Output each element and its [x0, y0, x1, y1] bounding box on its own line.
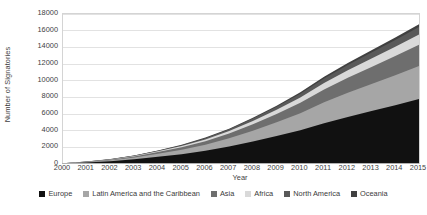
x-axis-tick-label: 2002: [101, 164, 117, 171]
y-axis-tick-label: 16000: [14, 26, 58, 33]
y-axis-tick-labels: 0200040006000800010000120001400016000180…: [14, 0, 58, 215]
x-axis-tick-label: 2012: [339, 164, 355, 171]
y-axis-tick-label: 2000: [14, 143, 58, 150]
y-axis-tick-label: 18000: [14, 9, 58, 16]
x-axis-tick-label: 2005: [172, 164, 188, 171]
x-axis-tick-label: 2010: [291, 164, 307, 171]
legend-item-label: North America: [293, 190, 340, 197]
x-axis-tick-label: 2004: [149, 164, 165, 171]
x-axis-tick-label: 2015: [410, 164, 426, 171]
legend-swatch-icon: [83, 191, 89, 197]
y-axis-tick-label: 10000: [14, 76, 58, 83]
legend-item-label: Europe: [48, 190, 72, 197]
legend-item-label: Asia: [220, 190, 234, 197]
legend-swatch-icon: [351, 191, 357, 197]
x-axis-tick-label: 2007: [220, 164, 236, 171]
stacked-area-chart: Number of Signatories 020004000600080001…: [0, 0, 427, 215]
chart-legend: EuropeLatin America and the CaribbeanAsi…: [0, 190, 427, 197]
legend-item[interactable]: Latin America and the Caribbean: [83, 190, 200, 197]
area-series-group: [63, 24, 419, 164]
legend-item[interactable]: North America: [284, 190, 340, 197]
legend-swatch-icon: [284, 191, 290, 197]
legend-swatch-icon: [39, 191, 45, 197]
y-axis-tick-label: 6000: [14, 109, 58, 116]
legend-item-label: Oceania: [360, 190, 388, 197]
x-axis-tick-label: 2014: [386, 164, 402, 171]
plot-svg: [63, 14, 419, 164]
legend-swatch-icon: [211, 191, 217, 197]
y-axis-tick-label: 4000: [14, 126, 58, 133]
legend-item[interactable]: Asia: [211, 190, 234, 197]
x-axis-tick-label: 2008: [244, 164, 260, 171]
legend-item-label: Africa: [254, 190, 273, 197]
y-axis-tick-label: 12000: [14, 59, 58, 66]
x-axis-tick-label: 2011: [315, 164, 331, 171]
x-axis-tick-label: 2003: [125, 164, 141, 171]
y-axis-tick-label: 14000: [14, 43, 58, 50]
x-axis-tick-label: 2006: [196, 164, 212, 171]
x-axis-tick-label: 2009: [267, 164, 283, 171]
x-axis-title: Year: [62, 173, 418, 182]
y-axis-tick-label: 8000: [14, 93, 58, 100]
x-axis-tick-label: 2013: [362, 164, 378, 171]
y-axis-tick-label: 0: [14, 159, 58, 166]
legend-item[interactable]: Oceania: [351, 190, 388, 197]
legend-item[interactable]: Europe: [39, 190, 72, 197]
x-axis-tick-label: 2000: [54, 164, 70, 171]
y-axis-title-label: Number of Signatories: [4, 46, 13, 122]
plot-area: [62, 13, 420, 164]
x-axis-tick-label: 2001: [77, 164, 93, 171]
x-axis-title-label: Year: [233, 173, 248, 182]
legend-swatch-icon: [245, 191, 251, 197]
legend-item[interactable]: Africa: [245, 190, 273, 197]
legend-item-label: Latin America and the Caribbean: [92, 190, 200, 197]
